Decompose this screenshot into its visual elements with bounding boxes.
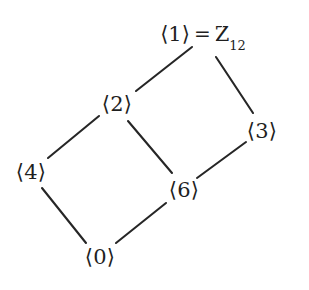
lattice-node-2: ⟨2⟩	[102, 94, 132, 115]
lattice-node-4: ⟨4⟩	[16, 162, 46, 183]
edge-4-to-2	[48, 116, 99, 158]
equals-sign: =	[190, 22, 215, 46]
edge-2-to-6	[128, 121, 172, 173]
edge-0-to-6	[116, 203, 166, 243]
node-label-1: ⟨1⟩	[160, 22, 190, 46]
edge-4-to-0	[42, 188, 86, 243]
edge-6-to-3	[197, 142, 246, 178]
edge-1-to-3	[216, 57, 253, 113]
lattice-node-1-top: ⟨1⟩=Z12	[160, 24, 246, 48]
edge-group	[42, 47, 253, 243]
subscript-12: 12	[229, 38, 246, 53]
blackboard-z-symbol: Z	[215, 24, 230, 45]
lattice-node-6: ⟨6⟩	[169, 180, 199, 201]
lattice-node-3: ⟨3⟩	[247, 121, 277, 142]
lattice-edges-svg	[0, 0, 309, 290]
lattice-node-0: ⟨0⟩	[85, 247, 115, 268]
subgroup-lattice-figure: ⟨1⟩=Z12 ⟨2⟩ ⟨3⟩ ⟨4⟩ ⟨6⟩ ⟨0⟩	[0, 0, 309, 290]
edge-2-to-1	[136, 47, 192, 91]
